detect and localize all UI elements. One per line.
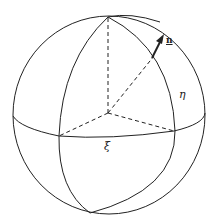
meridian-right [90,17,175,213]
meridian-left [59,17,108,213]
axis-right [108,113,174,131]
sphere-diagram [0,0,216,222]
normal-dashed [108,56,154,113]
axis-left [59,113,108,136]
arrowhead-icon [156,34,164,44]
equator [13,113,205,137]
label-eta: η [179,88,186,101]
label-xi: ξ [104,140,110,153]
label-normal: n [166,35,173,45]
sphere-outline [13,16,205,214]
